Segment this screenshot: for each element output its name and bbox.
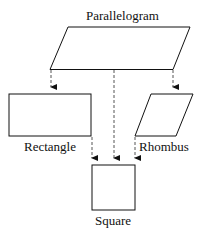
rectangle-label: Rectangle — [24, 140, 76, 153]
square-shape — [92, 165, 135, 210]
parallelogram-shape — [50, 27, 190, 70]
rhombus-shape — [135, 94, 193, 136]
rhombus-label: Rhombus — [139, 140, 189, 153]
diagram-shapes — [0, 0, 199, 233]
parallelogram-label: Parallelogram — [86, 9, 159, 22]
rectangle-shape — [9, 94, 91, 136]
quadrilateral-diagram: Parallelogram Rectangle Rhombus Square — [0, 0, 199, 233]
square-label: Square — [95, 214, 131, 227]
